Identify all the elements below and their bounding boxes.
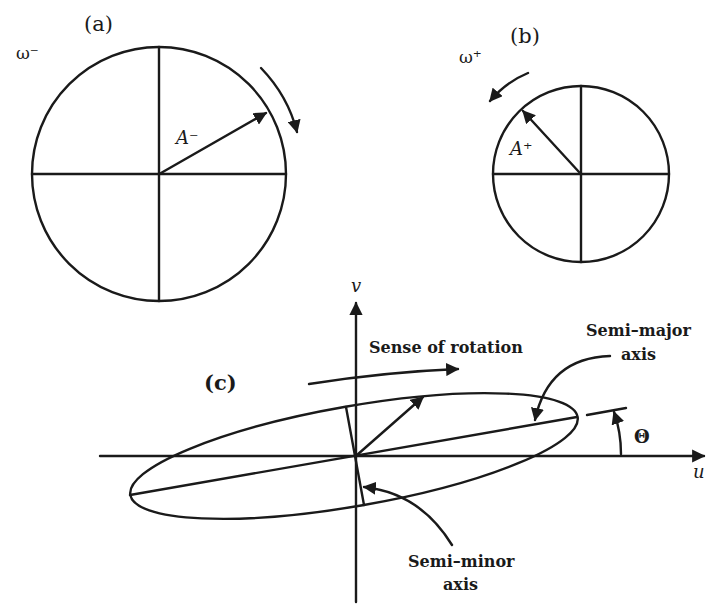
major-axis-extension bbox=[587, 408, 626, 415]
vector-a-plus-label: A⁺ bbox=[508, 138, 533, 159]
theta-label: Θ bbox=[634, 426, 650, 447]
semi-minor-label-line1: Semi–minor bbox=[408, 552, 515, 571]
semi-minor-label-line2: axis bbox=[443, 575, 478, 594]
vector-a-minus-label: A⁻ bbox=[174, 127, 199, 148]
semi-major-label-line1: Semi–major bbox=[586, 321, 692, 340]
clockwise-arrow-icon bbox=[261, 68, 297, 132]
omega-minus-label: ω⁻ bbox=[16, 43, 39, 63]
sense-of-rotation-label: Sense of rotation bbox=[369, 338, 523, 357]
rotary-components-diagram: (a) ω⁻ A⁻ (b) ω⁺ A⁺ (c) v u bbox=[0, 0, 710, 604]
theta-angle-arc bbox=[614, 412, 621, 454]
panel-c-label: (c) bbox=[204, 370, 237, 395]
v-axis-label: v bbox=[351, 275, 361, 296]
u-axis-label: u bbox=[693, 461, 705, 482]
panel-b: (b) ω⁺ A⁺ bbox=[459, 24, 669, 262]
panel-a-label: (a) bbox=[84, 12, 113, 36]
rotation-sense-arrow-icon bbox=[309, 369, 458, 384]
panel-c: (c) v u Sense of rotation Semi–major axi… bbox=[100, 275, 705, 602]
omega-plus-label: ω⁺ bbox=[459, 47, 482, 67]
panel-a: (a) ω⁻ A⁻ bbox=[16, 12, 297, 301]
semi-major-label-line2: axis bbox=[621, 345, 656, 364]
panel-b-label: (b) bbox=[510, 24, 540, 48]
counterclockwise-arrow-icon bbox=[490, 73, 528, 101]
semi-major-pointer-arrow-icon bbox=[535, 356, 610, 420]
